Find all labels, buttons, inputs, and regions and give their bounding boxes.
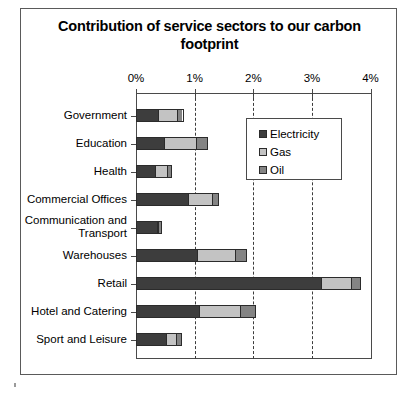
bar-segment-oil [158, 222, 161, 233]
scan-speck [14, 383, 16, 387]
gridline-4 [371, 93, 372, 359]
legend-label: Gas [270, 146, 291, 158]
category-label: Government [0, 109, 127, 122]
legend-label: Electricity [270, 128, 319, 140]
bar-segment-oil [177, 110, 182, 121]
bar-segment-electricity [137, 306, 199, 317]
legend-swatch-icon [259, 166, 267, 174]
bar-segment-gas [158, 110, 177, 121]
bar-segment-oil [235, 250, 246, 261]
bar-communication-and-transport[interactable] [136, 221, 162, 234]
bar-hotel-and-catering[interactable] [136, 305, 256, 318]
bar-health[interactable] [136, 165, 172, 178]
bar-warehouses[interactable] [136, 249, 247, 262]
category-label: Education [0, 137, 127, 150]
bar-segment-oil [240, 306, 255, 317]
bar-segment-gas [321, 278, 351, 289]
x-tick-label: 4% [362, 72, 379, 84]
chart-figure: Contribution of service sectors to our c… [20, 8, 397, 375]
x-tick-label: 1% [186, 72, 203, 84]
legend-item-electricity[interactable]: Electricity [259, 125, 341, 142]
bar-commercial-offices[interactable] [136, 193, 219, 206]
x-tick-label: 2% [245, 72, 262, 84]
bar-sport-and-leisure[interactable] [136, 333, 182, 346]
category-label: Commercial Offices [0, 193, 127, 206]
bar-segment-electricity [137, 110, 158, 121]
bar-segment-oil [212, 194, 218, 205]
category-label: Hotel and Catering [0, 305, 127, 318]
bar-segment-electricity [137, 334, 166, 345]
bar-segment-electricity [137, 250, 197, 261]
category-label: Health [0, 165, 127, 178]
gridline-1 [195, 93, 196, 359]
x-tick-label: 3% [304, 72, 321, 84]
bar-segment-electricity [137, 194, 188, 205]
bar-education[interactable] [136, 137, 208, 150]
category-label: Sport and Leisure [0, 333, 127, 346]
bar-segment-gas [155, 166, 168, 177]
bar-segment-gas [164, 138, 196, 149]
bar-segment-oil [196, 138, 207, 149]
bar-retail[interactable] [136, 277, 361, 290]
legend-item-gas[interactable]: Gas [259, 143, 341, 160]
category-label: Warehouses [0, 249, 127, 262]
x-tick-label: 0% [128, 72, 145, 84]
bar-segment-electricity [137, 222, 157, 233]
legend-item-oil[interactable]: Oil [259, 161, 341, 178]
legend-swatch-icon [259, 130, 267, 138]
legend-label: Oil [270, 164, 284, 176]
legend-swatch-icon [259, 148, 267, 156]
chart-legend: Electricity Gas Oil [246, 118, 342, 180]
bar-segment-gas [166, 334, 176, 345]
category-label: Retail [0, 277, 127, 290]
bar-segment-gas [199, 306, 240, 317]
bar-segment-oil [167, 166, 171, 177]
chart-title: Contribution of service sectors to our c… [35, 17, 384, 53]
bar-segment-gas [188, 194, 211, 205]
bar-government[interactable] [136, 109, 184, 122]
bar-segment-gas [197, 250, 234, 261]
bar-segment-oil [176, 334, 180, 345]
bar-segment-electricity [137, 278, 321, 289]
category-label: Communication and Transport [0, 214, 127, 240]
bar-segment-oil [351, 278, 360, 289]
bar-segment-electricity [137, 138, 164, 149]
bar-segment-electricity [137, 166, 155, 177]
